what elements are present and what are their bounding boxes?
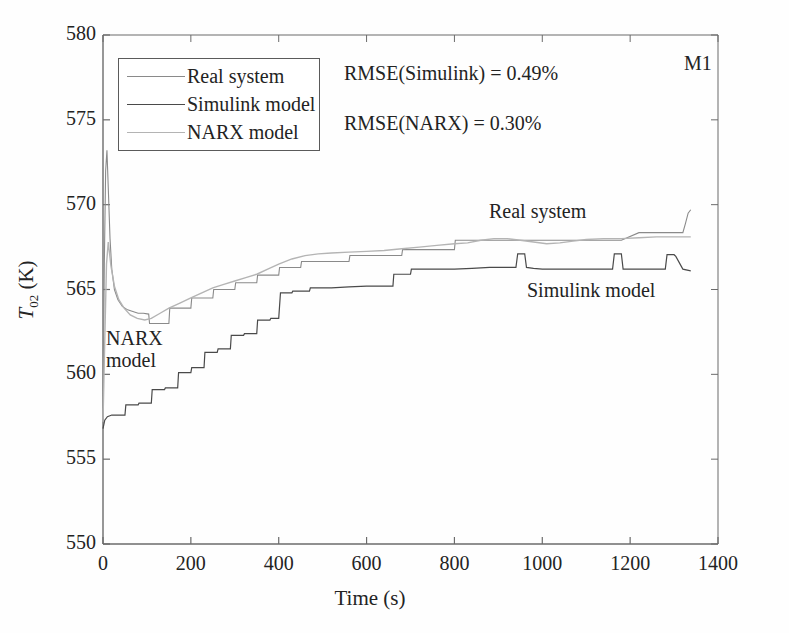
legend-item: Simulink model [127, 90, 315, 118]
x-tick-label: 0 [63, 552, 143, 575]
x-tick-label: 1400 [678, 552, 758, 575]
x-tick-label: 600 [327, 552, 407, 575]
x-tick-label: 200 [151, 552, 231, 575]
simulink-curve-annotation: Simulink model [527, 279, 655, 302]
y-axis-label-unit: (K) [14, 260, 38, 294]
narx-curve-annotation: NARX model [106, 327, 196, 372]
legend-swatch-line [127, 104, 185, 105]
y-axis-label-symbol: T [14, 308, 38, 320]
y-tick-label: 570 [34, 192, 96, 215]
legend-line-swatch [127, 70, 185, 82]
x-tick-label: 1200 [590, 552, 670, 575]
legend-item-label: Real system [187, 65, 284, 88]
y-tick-label: 560 [34, 361, 96, 384]
y-axis-label-subscript: 02 [26, 295, 41, 308]
legend-item: Real system [127, 62, 284, 90]
panel-tag: M1 [684, 52, 712, 75]
legend-item-label: Simulink model [187, 93, 315, 116]
rmse-simulink-annotation: RMSE(Simulink) = 0.49% [344, 62, 558, 85]
legend-item-label: NARX model [187, 121, 299, 144]
x-tick-label: 400 [239, 552, 319, 575]
y-tick-label: 550 [34, 531, 96, 554]
x-axis-label: Time (s) [335, 586, 406, 611]
legend-swatch-line [127, 76, 185, 77]
y-tick-label: 575 [34, 107, 96, 130]
rmse-narx-annotation: RMSE(NARX) = 0.30% [344, 112, 541, 135]
y-tick-label: 565 [34, 277, 96, 300]
y-tick-label: 555 [34, 446, 96, 469]
legend-line-swatch [127, 98, 185, 110]
real-system-curve-annotation: Real system [489, 200, 586, 223]
y-tick-label: 580 [34, 22, 96, 45]
x-tick-label: 800 [414, 552, 494, 575]
x-tick-label: 1000 [502, 552, 582, 575]
legend: Real systemSimulink modelNARX model [118, 58, 320, 151]
legend-line-swatch [127, 126, 185, 138]
y-axis-label: T02 (K) [14, 260, 42, 319]
legend-swatch-line [127, 132, 185, 133]
figure-container: 550555560565570575580 020040060080010001… [0, 0, 789, 633]
legend-item: NARX model [127, 118, 299, 146]
